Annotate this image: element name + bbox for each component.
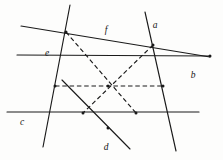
label-c: c (20, 117, 25, 127)
vertex-c-right (135, 112, 138, 115)
vertex-f-a (152, 44, 155, 47)
label-f: f (105, 25, 109, 35)
label-a: a (153, 20, 158, 30)
vertex-center (107, 85, 110, 88)
vertex-e-b (54, 85, 57, 88)
vertex-c-d (82, 112, 85, 115)
line-e (43, 5, 70, 147)
line-a (145, 12, 176, 151)
figure-canvas: abcdef (0, 0, 223, 160)
geometry-diagram: abcdef (0, 0, 223, 160)
line-f (21, 26, 210, 57)
vertex-f-e (65, 31, 68, 34)
vertex-d-b (107, 127, 110, 130)
label-b: b (191, 70, 196, 80)
vertex-f-b (209, 55, 212, 58)
line-d (62, 80, 130, 149)
label-e: e (45, 48, 49, 58)
vertex-a-b (162, 85, 165, 88)
dashed-lines-group (55, 32, 163, 113)
label-d: d (104, 142, 109, 152)
